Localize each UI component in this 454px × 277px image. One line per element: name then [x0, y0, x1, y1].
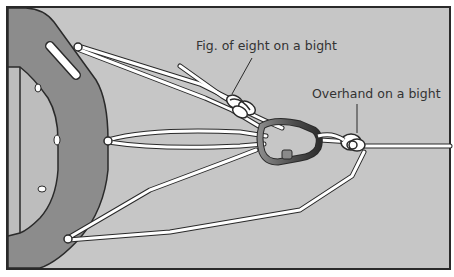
- device-bump: [38, 186, 46, 192]
- anchor-bottom: [64, 235, 72, 243]
- device-bump: [54, 135, 60, 145]
- label-overhand: Overhand on a bight: [312, 86, 441, 101]
- device-bump: [35, 84, 41, 92]
- label-fig-eight: Fig. of eight on a bight: [196, 38, 337, 53]
- anchor-middle: [104, 137, 112, 145]
- anchor-top: [74, 43, 82, 51]
- knot-rigging-diagram: Fig. of eight on a bight Overhand on a b…: [0, 0, 454, 277]
- carabiner-gate-sleeve: [282, 150, 292, 159]
